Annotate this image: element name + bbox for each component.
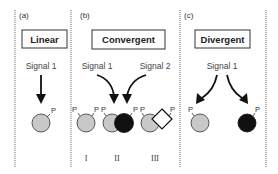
- protein-dark-variant-2: [115, 114, 134, 133]
- protein-gray: [191, 114, 209, 132]
- phospho-label: P: [51, 106, 56, 115]
- arrowhead-icon: [239, 93, 248, 104]
- phospho-label: P: [94, 105, 99, 114]
- arrowhead-icon: [122, 94, 132, 104]
- convergent-signal-1: Signal 1: [82, 61, 113, 71]
- variant-label-1: I: [85, 154, 88, 163]
- panel-b-label: (b): [80, 11, 90, 20]
- arrow-icon: [202, 75, 217, 98]
- linear-signal-1: Signal 1: [26, 61, 57, 71]
- phospho-label: P: [101, 105, 106, 114]
- signaling-diagram: (a) Linear Signal 1 P (b) Convergent Sig…: [0, 0, 278, 174]
- panel-convergent: (b) Convergent Signal 1 Signal 2 P P I P…: [72, 11, 175, 163]
- arrowhead-icon: [36, 94, 46, 104]
- arrowhead-icon: [109, 94, 119, 104]
- phospho-tick: [47, 114, 50, 117]
- panel-a-label: (a): [19, 11, 29, 20]
- convergent-signal-2: Signal 2: [140, 61, 171, 71]
- arrow-icon: [227, 75, 242, 98]
- arrow-icon: [127, 75, 146, 96]
- phospho-tick: [130, 113, 132, 116]
- phospho-label: P: [133, 105, 138, 114]
- phospho-label: P: [170, 105, 175, 114]
- variant-label-2: II: [114, 154, 120, 163]
- protein-dark: [238, 114, 256, 132]
- divergent-signal-1: Signal 1: [207, 61, 238, 71]
- arrow-icon: [97, 75, 114, 96]
- phospho-label: P: [72, 105, 77, 114]
- panel-divergent: (c) Divergent Signal 1 P P: [184, 11, 260, 132]
- phospho-label: P: [140, 105, 145, 114]
- panel-c-label: (c): [184, 11, 194, 20]
- arrowhead-icon: [196, 93, 205, 104]
- phospho-tick: [78, 113, 80, 116]
- linear-title: Linear: [30, 34, 59, 45]
- protein-gray-variant-1: [77, 114, 95, 132]
- phospho-label: P: [188, 105, 193, 114]
- variant-label-3: III: [151, 154, 159, 163]
- phospho-label: P: [255, 105, 260, 114]
- divergent-title: Divergent: [201, 34, 246, 45]
- convergent-title: Convergent: [102, 34, 156, 45]
- panel-linear: (a) Linear Signal 1 P: [19, 11, 67, 132]
